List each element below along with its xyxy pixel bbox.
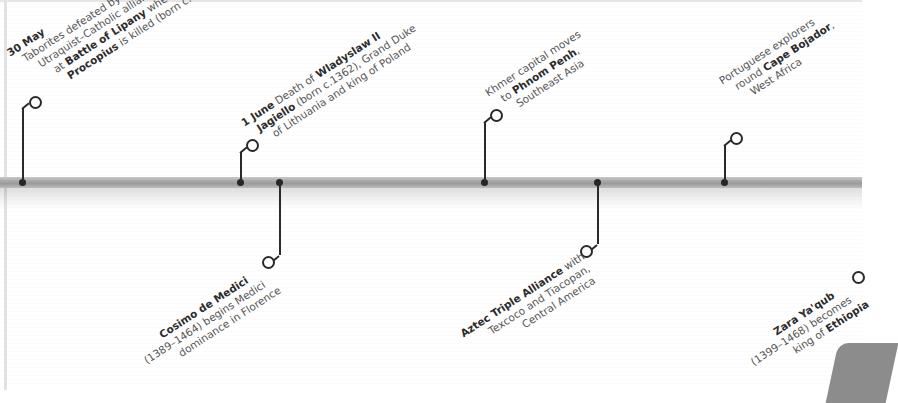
event-label: Aztec Triple Alliance with Texcoco and T… [437,250,601,375]
event-stem [484,122,486,182]
timeline-bar-shadow [0,188,862,210]
event-stem [279,183,281,255]
event-stem [240,152,242,182]
event-stem [724,145,726,182]
event-label: Khmer capital moves to Phnom Penh, South… [483,28,598,121]
event-stem [22,108,24,182]
event-label: Cosimo de Medici (1389–1464) begins Medi… [119,262,283,387]
event-text: (1389–1464) begins Medici [141,278,267,366]
event-text: (born c.1362), Grand Duke [291,22,418,110]
event-label: 1 June Death of Wladyslaw II Jagiello (b… [239,11,426,151]
event-stem [597,183,599,244]
event-label: Portuguese explorers round Cape Bojador,… [717,8,844,109]
event-label: 30 May Taborites defeated by Utraquist–C… [5,0,220,103]
corner-tab-shape [826,343,898,403]
timeline-bar [0,177,862,188]
event-marker-ring-icon [730,132,743,145]
